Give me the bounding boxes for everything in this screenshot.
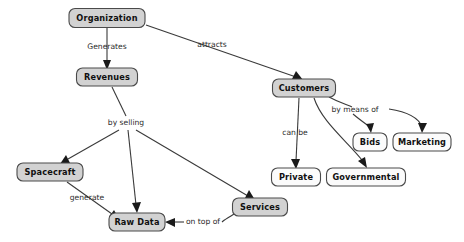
edge-label-attracts: attracts <box>197 40 227 49</box>
node-label: Spacecraft <box>24 167 75 177</box>
node-governmental[interactable]: Governmental <box>327 168 406 186</box>
edge-organization-customers <box>146 25 303 80</box>
edge-line <box>136 130 248 196</box>
edge-label-by-selling: by selling <box>108 118 144 127</box>
edge-customers-marketing <box>389 109 427 133</box>
edge-line <box>389 109 422 127</box>
edge-line <box>68 130 119 159</box>
edge-customers-bids <box>329 97 374 133</box>
edge-line <box>112 87 126 116</box>
node-organization[interactable]: Organization <box>69 9 145 28</box>
node-bids[interactable]: Bids <box>353 133 387 151</box>
node-label: Customers <box>279 83 330 93</box>
edge-line <box>146 25 296 77</box>
node-customers[interactable]: Customers <box>273 79 336 97</box>
edge-label-generates: Generates <box>87 42 126 51</box>
node-label: Governmental <box>332 172 399 182</box>
concept-map-svg: Generates attracts by selling by means o… <box>0 0 464 242</box>
edge-revenues-hub <box>112 87 126 116</box>
node-label: Revenues <box>84 72 130 82</box>
arrow-head-icon <box>366 123 374 133</box>
edge-label-on-top-of: on top of <box>186 217 220 226</box>
node-label: Organization <box>76 13 137 23</box>
node-spacecraft[interactable]: Spacecraft <box>17 163 83 181</box>
edge-line <box>128 130 136 205</box>
node-marketing[interactable]: Marketing <box>393 133 451 151</box>
node-label: Services <box>240 202 280 212</box>
edge-line <box>222 214 234 222</box>
node-label: Private <box>279 172 314 182</box>
concept-map-canvas: Generates attracts by selling by means o… <box>0 0 464 242</box>
arrow-head-icon <box>132 202 141 213</box>
edge-revenues-rawdata <box>128 130 141 213</box>
arrow-head-icon <box>418 123 427 133</box>
node-label: Marketing <box>398 137 446 147</box>
arrow-head-icon <box>165 218 175 227</box>
edge-revenues-spacecraft <box>60 130 119 164</box>
edge-label-generate: generate <box>70 193 105 202</box>
arrow-head-icon <box>358 157 367 168</box>
node-services[interactable]: Services <box>233 198 288 216</box>
node-private[interactable]: Private <box>272 168 321 186</box>
node-label: Raw Data <box>114 217 159 227</box>
node-revenues[interactable]: Revenues <box>77 68 138 86</box>
edge-revenues-services <box>136 130 255 200</box>
node-rawdata[interactable]: Raw Data <box>109 213 165 231</box>
edge-label-by-means-of: by means of <box>332 105 379 114</box>
node-label: Bids <box>360 137 380 147</box>
edge-label-can-be: can be <box>282 128 308 137</box>
